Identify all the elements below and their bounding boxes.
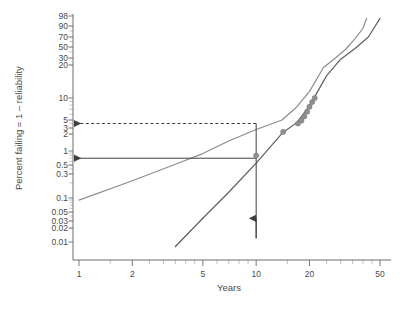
y-axis-title: Percent failing = 1 – reliability	[13, 66, 24, 190]
y-tick-label: 98	[59, 11, 69, 21]
y-tick-label: 2	[63, 129, 68, 139]
x-tick-label: 10	[251, 269, 261, 279]
figure-caption	[0, 301, 405, 310]
x-tick-label: 5	[200, 269, 205, 279]
data-point	[305, 109, 310, 114]
fit-curve-lognormal-fit	[79, 18, 367, 200]
y-tick-label: 10	[59, 93, 69, 103]
figure-root: Percent failing = 1 – reliability Years …	[0, 0, 405, 310]
y-tick-label: 90	[59, 21, 69, 31]
y-tick-label: 0.1	[56, 193, 68, 203]
data-point	[281, 129, 286, 134]
fit-curve-weibull-fit	[175, 18, 380, 246]
y-tick-label: 70	[59, 32, 69, 42]
y-tick-label: 0.3	[56, 169, 68, 179]
probability-plot: Percent failing = 1 – reliability Years …	[0, 0, 405, 310]
fitted-curves-layer	[79, 18, 380, 246]
data-point	[307, 104, 312, 109]
y-tick-label: 0.02	[51, 223, 68, 233]
y-tick-label: 20	[59, 60, 69, 70]
y-tick-label: 1	[63, 146, 68, 156]
y-axis-tick-labels: 9890705030201053210.50.30.10.050.030.020…	[51, 11, 68, 247]
x-axis-tick-marks	[79, 260, 380, 266]
data-point	[312, 95, 317, 100]
y-tick-label: 50	[59, 42, 69, 52]
y-tick-label: 0.01	[51, 237, 68, 247]
y-axis-tick-marks	[69, 16, 74, 242]
data-point	[302, 114, 307, 119]
data-point	[254, 153, 259, 158]
x-tick-label: 50	[375, 269, 385, 279]
x-axis-title: Years	[217, 282, 241, 293]
x-tick-label: 1	[77, 269, 82, 279]
x-tick-label: 20	[305, 269, 315, 279]
x-axis-tick-labels: 125102050	[77, 269, 385, 279]
x-tick-label: 2	[130, 269, 135, 279]
